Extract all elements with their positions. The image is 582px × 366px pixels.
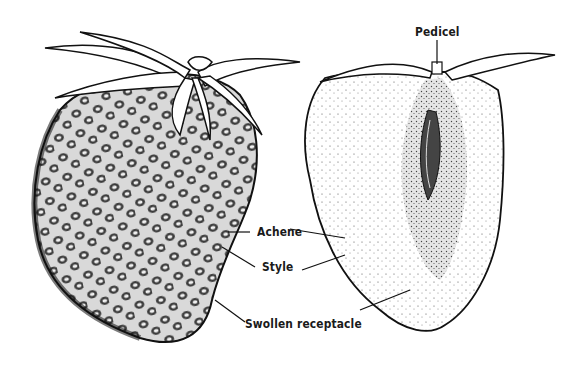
- label-style: Style: [262, 259, 293, 274]
- whole-strawberry-figure: [34, 32, 300, 342]
- label-achene: Achene: [257, 224, 302, 239]
- strawberry-diagram: [0, 0, 582, 366]
- label-pedicel: Pedicel: [415, 24, 460, 39]
- fruit-body: [34, 74, 256, 342]
- section-figure: [305, 53, 555, 331]
- label-swollen-receptacle: Swollen receptacle: [245, 316, 362, 331]
